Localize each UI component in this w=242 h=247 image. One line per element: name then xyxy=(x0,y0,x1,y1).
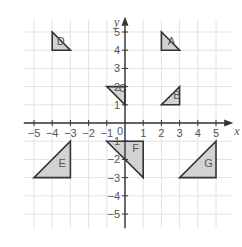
y-axis-label: y xyxy=(113,15,120,29)
y-tick-label: −3 xyxy=(107,172,120,184)
triangle-b: B xyxy=(161,87,180,105)
triangle-label: E xyxy=(59,157,66,169)
x-tick-label: 3 xyxy=(177,127,183,139)
coordinate-grid: ABCDEFG −5−4−3−2−11234554321−1−2−3−4−50x… xyxy=(0,0,242,247)
y-tick-label: 4 xyxy=(114,44,120,56)
triangle-label: A xyxy=(168,35,176,47)
y-tick-label: 2 xyxy=(114,81,120,93)
x-tick-label: −4 xyxy=(46,127,59,139)
x-tick-label: 5 xyxy=(213,127,219,139)
origin-label: 0 xyxy=(117,125,123,137)
triangle-d: D xyxy=(52,32,70,50)
x-tick-label: −5 xyxy=(28,127,41,139)
triangle-label: F xyxy=(132,142,139,154)
y-tick-label: 3 xyxy=(114,62,120,74)
triangle-label: B xyxy=(173,89,180,101)
triangle-label: D xyxy=(57,35,65,47)
x-tick-label: −2 xyxy=(82,127,95,139)
x-tick-label: 2 xyxy=(158,127,164,139)
x-tick-label: 4 xyxy=(195,127,201,139)
y-tick-label: −5 xyxy=(107,208,120,220)
x-axis-arrow-icon xyxy=(224,120,233,127)
y-tick-label: −1 xyxy=(107,135,120,147)
triangle-a: A xyxy=(161,32,179,50)
x-tick-label: −3 xyxy=(64,127,77,139)
grid-lines xyxy=(24,20,232,228)
triangle-label: G xyxy=(204,157,213,169)
y-tick-label: 1 xyxy=(114,99,120,111)
y-axis-arrow-icon xyxy=(122,17,129,26)
y-tick-label: −2 xyxy=(107,153,120,165)
y-tick-label: −4 xyxy=(107,190,120,202)
x-axis-label: x xyxy=(233,124,240,138)
x-tick-label: 1 xyxy=(140,127,146,139)
